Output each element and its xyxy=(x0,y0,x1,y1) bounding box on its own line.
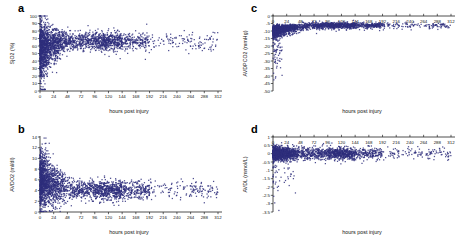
panel-c-ytick: -20 xyxy=(253,44,270,49)
panel-a-ytick: 40 xyxy=(20,59,37,64)
panel-d-ytick: 0 xyxy=(253,151,270,156)
panel-b-ytick: 8 xyxy=(20,167,37,172)
panel-d-letter: d xyxy=(251,123,258,135)
panel-c-ytick: -15 xyxy=(253,36,270,41)
panel-b: b 02468101214024487296120144168192216240… xyxy=(0,121,233,242)
panel-d-ytick: -0.5 xyxy=(253,160,270,165)
panel-a-ytick: 20 xyxy=(20,74,37,79)
panel-a-ytick: 70 xyxy=(20,36,37,41)
panel-a-ytick: 0 xyxy=(20,89,37,94)
panel-c-ytick: -30 xyxy=(253,59,270,64)
panel-b-letter: b xyxy=(18,123,25,135)
panel-b-ytick: 14 xyxy=(20,135,37,140)
panel-b-ytick: 4 xyxy=(20,188,37,193)
panel-c: c 0-5-10-15-20-25-30-35-40-45-5002448729… xyxy=(233,0,466,121)
panel-a-ytick: 100 xyxy=(20,14,37,19)
panel-d-ylabel: AVDL (mmol/L) xyxy=(242,137,248,212)
panel-a-ylabel: SjO2 (%) xyxy=(9,16,15,91)
panel-b-ytick: 12 xyxy=(20,145,37,150)
panel-c-plot: 0-5-10-15-20-25-30-35-40-45-500244872961… xyxy=(273,16,451,91)
panel-d-ytick: -2.5 xyxy=(253,193,270,198)
panel-b-plot: 0246810121402448729612014416819221624026… xyxy=(40,137,218,212)
panel-c-xlabel: hours post injury xyxy=(273,108,451,114)
panel-c-ytick: -40 xyxy=(253,74,270,79)
panel-d-ytick: 1 xyxy=(253,135,270,140)
panel-a-letter: a xyxy=(18,2,24,14)
panel-b-xlabel: hours post injury xyxy=(40,229,218,235)
panel-d-xlabel: hours post injury xyxy=(273,229,451,235)
panel-b-ytick: 2 xyxy=(20,199,37,204)
panel-d-ytick: -2 xyxy=(253,185,270,190)
panel-c-ytick: -35 xyxy=(253,66,270,71)
panel-c-letter: c xyxy=(251,2,257,14)
panel-a-xlabel: hours post injury xyxy=(40,108,218,114)
panel-a-axes xyxy=(40,16,232,105)
panel-d-axes xyxy=(273,137,465,226)
panel-a-ytick: 10 xyxy=(20,81,37,86)
panel-a-plot: 0102030405060708090100024487296120144168… xyxy=(40,16,218,91)
panel-d-ytick: -3 xyxy=(253,201,270,206)
panel-b-ylabel: AVDO2 (ml/dl) xyxy=(9,137,15,212)
panel-b-ytick: 10 xyxy=(20,156,37,161)
panel-d: d 10.50-0.5-1-1.5-2-2.5-3-3.502448729612… xyxy=(233,121,466,242)
panel-b-ytick: 0 xyxy=(20,210,37,215)
panel-d-ytick: -3.5 xyxy=(253,210,270,215)
panel-d-ytick: -1.5 xyxy=(253,176,270,181)
panel-c-axes xyxy=(273,16,465,105)
panel-c-ytick: -50 xyxy=(253,89,270,94)
panel-a-ytick: 90 xyxy=(20,21,37,26)
panel-a-ytick: 50 xyxy=(20,51,37,56)
panel-b-ytick: 6 xyxy=(20,177,37,182)
panel-c-ytick: 0 xyxy=(253,14,270,19)
panel-b-axes xyxy=(40,137,232,226)
panel-c-ytick: -25 xyxy=(253,51,270,56)
panel-a-ytick: 30 xyxy=(20,66,37,71)
panel-d-plot: 10.50-0.5-1-1.5-2-2.5-3-3.50244872961201… xyxy=(273,137,451,212)
panel-a: a 01020304050607080901000244872961201441… xyxy=(0,0,233,121)
panel-c-ylabel: AVDPCO2 (mmHg) xyxy=(242,16,248,91)
panel-c-ytick: -10 xyxy=(253,29,270,34)
panel-d-ytick: -1 xyxy=(253,168,270,173)
panel-c-ytick: -45 xyxy=(253,81,270,86)
panel-a-ytick: 80 xyxy=(20,29,37,34)
panel-a-ytick: 60 xyxy=(20,44,37,49)
figure-container: a 01020304050607080901000244872961201441… xyxy=(0,0,466,243)
